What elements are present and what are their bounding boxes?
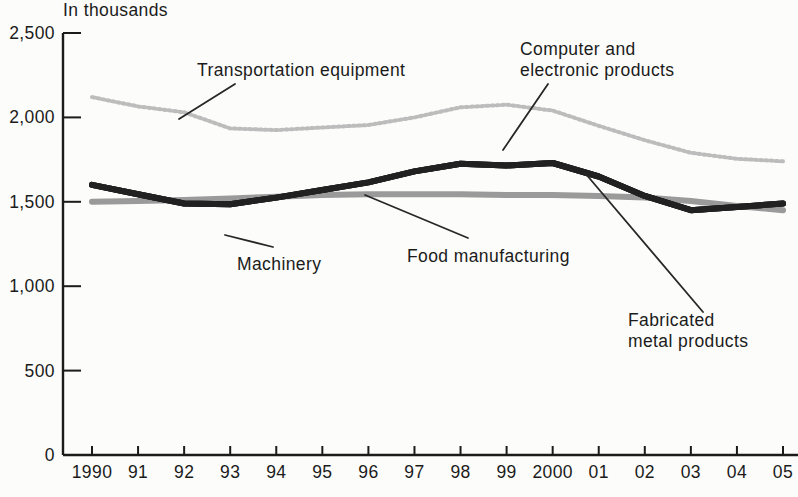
x-tick-label-03: 03	[681, 462, 701, 482]
employment-line-chart: 05001,0001,5002,0002,5001990919293949596…	[0, 0, 798, 497]
y-tick-label-0: 0	[45, 445, 55, 465]
x-tick-label-05: 05	[773, 462, 793, 482]
x-tick-label-96: 96	[358, 462, 378, 482]
annotation-machinery-label: Machinery	[237, 254, 321, 274]
series-line-transportation-equipment	[92, 97, 783, 161]
annotation-food-manufacturing-label: Food manufacturing	[407, 246, 570, 266]
x-tick-label-01: 01	[589, 462, 609, 482]
x-tick-label-2000: 2000	[532, 462, 573, 482]
annotation-fabricated-metal-products-line-1: Fabricated	[628, 310, 715, 330]
annotation-computer-electronic-products-line-2: electronic products	[520, 60, 674, 80]
annotation-food-manufacturing-line-1: Food manufacturing	[407, 246, 570, 266]
x-tick-label-97: 97	[404, 462, 424, 482]
annotation-fabricated-metal-products-line-2: metal products	[628, 331, 748, 351]
x-tick-label-99: 99	[496, 462, 516, 482]
annotation-machinery-line-1: Machinery	[237, 254, 321, 274]
y-tick-label-1-500: 1,500	[9, 192, 55, 212]
scanned-line-chart-page: 05001,0001,5002,0002,5001990919293949596…	[0, 0, 798, 497]
y-tick-label-2-000: 2,000	[9, 107, 55, 127]
annotation-transportation-equipment-line-1: Transportation equipment	[197, 60, 405, 80]
units-label: In thousands	[63, 0, 168, 20]
annotation-food-manufacturing-leader	[365, 195, 468, 238]
annotation-transportation-equipment-label: Transportation equipment	[197, 60, 405, 80]
x-tick-label-94: 94	[266, 462, 286, 482]
x-tick-label-04: 04	[727, 462, 747, 482]
annotation-machinery-leader	[225, 235, 273, 247]
annotation-transportation-equipment-leader	[179, 84, 235, 119]
annotation-fabricated-metal-products-label: Fabricatedmetal products	[628, 310, 748, 351]
annotation-computer-electronic-products-label: Computer andelectronic products	[520, 39, 674, 80]
annotation-computer-electronic-products-line-1: Computer and	[520, 39, 636, 59]
x-tick-label-91: 91	[128, 462, 148, 482]
x-tick-label-98: 98	[450, 462, 470, 482]
x-tick-label-1990: 1990	[72, 462, 113, 482]
annotation-computer-electronic-products-leader	[503, 84, 548, 150]
x-tick-label-95: 95	[312, 462, 332, 482]
y-tick-label-500: 500	[25, 361, 55, 381]
y-tick-label-2-500: 2,500	[9, 23, 55, 43]
x-tick-label-92: 92	[174, 462, 194, 482]
x-tick-label-93: 93	[220, 462, 240, 482]
x-tick-label-02: 02	[635, 462, 655, 482]
y-tick-label-1-000: 1,000	[9, 276, 55, 296]
